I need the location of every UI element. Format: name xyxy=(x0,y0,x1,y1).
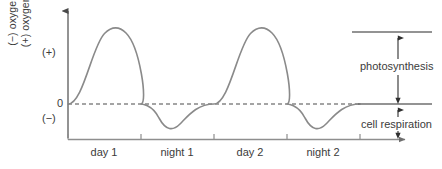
oxygen-exchange-diagram: (−) oxygen taken in (+) oxygen given off… xyxy=(0,0,442,169)
y-label-negative: (−) xyxy=(42,113,56,124)
x-tick-label-night-1: night 1 xyxy=(151,147,203,158)
plot-area xyxy=(0,0,442,169)
x-tick-label-day-1: day 1 xyxy=(78,147,130,158)
y-axis-caption-line-2: (+) oxygen given off xyxy=(19,0,32,47)
cell-respiration-label: cell respiration xyxy=(361,119,432,130)
y-axis-caption: (−) oxygen taken in (+) oxygen given off xyxy=(2,0,36,58)
y-label-positive: (+) xyxy=(42,47,56,58)
y-label-zero: 0 xyxy=(57,98,63,109)
x-axis-ticks xyxy=(68,134,360,140)
x-tick-label-day-2: day 2 xyxy=(224,147,276,158)
y-axis-caption-line-1: (−) oxygen taken in xyxy=(6,0,19,46)
photosynthesis-label: photosynthesis xyxy=(360,61,433,72)
oxygen-exchange-curve xyxy=(68,28,360,129)
x-axis xyxy=(68,134,405,140)
x-tick-label-night-2: night 2 xyxy=(297,147,349,158)
